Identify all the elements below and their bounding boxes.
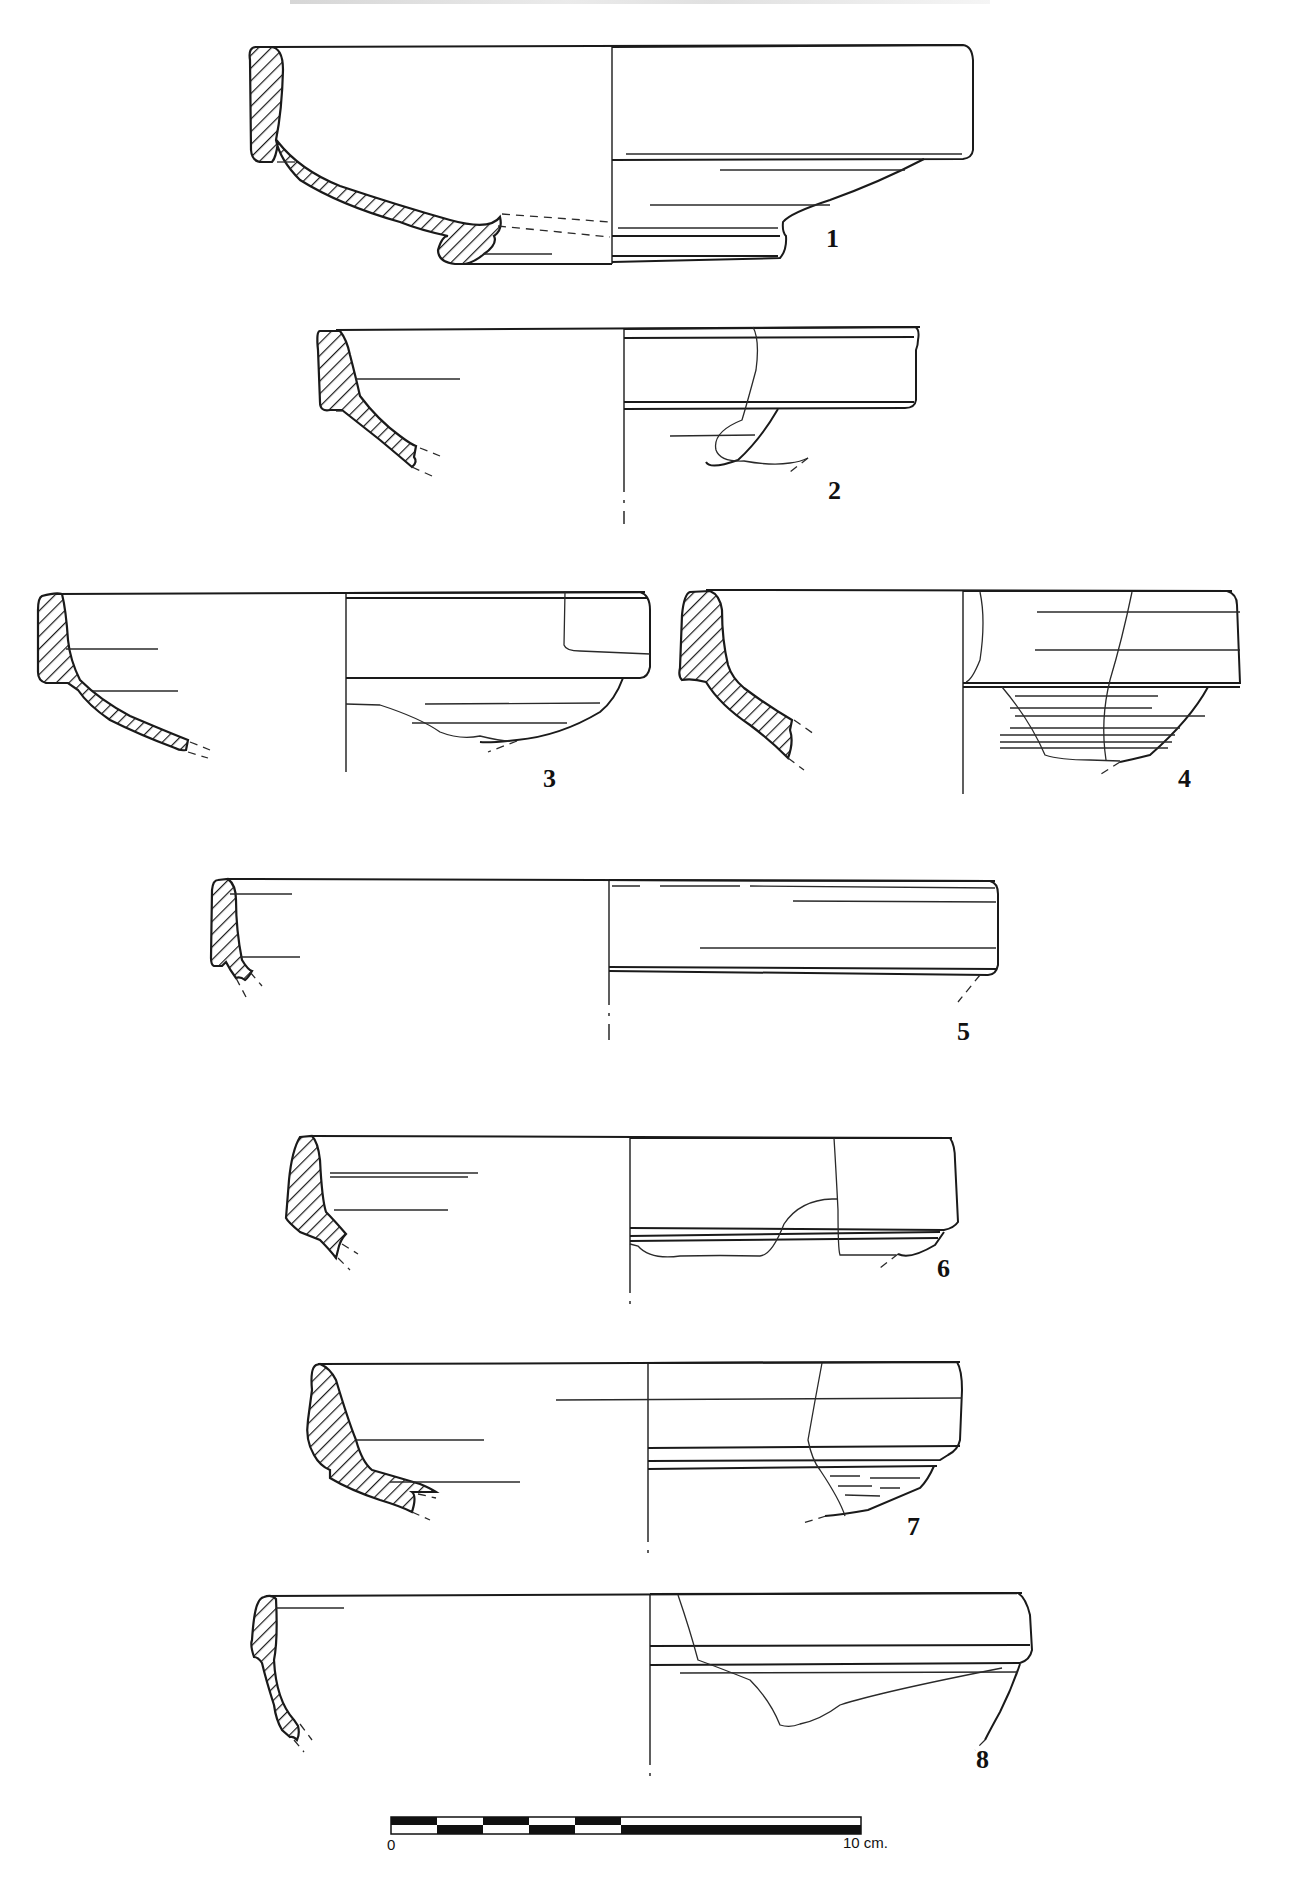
figure-label-8: 8 bbox=[976, 1747, 989, 1773]
vessel-5 bbox=[211, 879, 998, 1040]
figure-label-1: 1 bbox=[826, 226, 839, 252]
vessel-3 bbox=[38, 592, 650, 772]
figure-label-3: 3 bbox=[543, 766, 556, 792]
vessel-1 bbox=[250, 45, 973, 264]
vessel-2-section bbox=[317, 331, 416, 467]
figure-label-6: 6 bbox=[937, 1256, 950, 1282]
figure-label-2: 2 bbox=[828, 478, 841, 504]
vessel-4-section bbox=[679, 591, 792, 758]
vessel-6 bbox=[286, 1136, 958, 1305]
vessel-8 bbox=[251, 1593, 1032, 1782]
vessel-8-section bbox=[251, 1596, 298, 1740]
vessel-6-section bbox=[286, 1136, 346, 1258]
vessel-3-section bbox=[38, 593, 188, 750]
vessel-7 bbox=[307, 1362, 962, 1560]
vessel-drawings bbox=[0, 0, 1294, 1892]
scale-end-label: 10 cm. bbox=[843, 1835, 888, 1850]
figure-label-5: 5 bbox=[957, 1019, 970, 1045]
figure-label-7: 7 bbox=[907, 1514, 920, 1540]
scale-start-label: 0 bbox=[387, 1837, 395, 1852]
vessel-1-section bbox=[250, 47, 501, 264]
vessel-4 bbox=[679, 590, 1240, 800]
vessel-7-section bbox=[307, 1364, 436, 1512]
scale-bar bbox=[391, 1817, 861, 1834]
pottery-plate: 1 2 3 4 5 6 7 8 0 10 cm. bbox=[0, 0, 1294, 1892]
figure-label-4: 4 bbox=[1178, 766, 1191, 792]
